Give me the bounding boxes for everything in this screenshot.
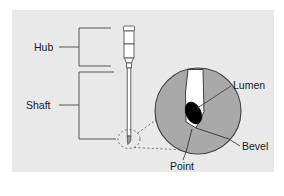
hub-collar xyxy=(127,63,132,68)
label-hub: Hub xyxy=(34,41,53,53)
label-point: Point xyxy=(170,160,194,172)
hub-taper xyxy=(125,58,134,63)
label-lumen: Lumen xyxy=(233,79,265,91)
hub-upper-barrel xyxy=(124,31,134,44)
caption-strip xyxy=(0,183,284,196)
needle-anatomy-diagram: Hub Shaft Lumen Bevel Point xyxy=(0,0,284,196)
hub-cap xyxy=(124,26,135,31)
label-shaft: Shaft xyxy=(26,99,51,111)
figure-root: Hub Shaft Lumen Bevel Point xyxy=(0,0,284,196)
hub-lower-barrel xyxy=(124,44,134,58)
magnified-tip-circle xyxy=(155,68,241,154)
needle-shaft xyxy=(127,68,131,136)
label-bevel: Bevel xyxy=(242,140,268,152)
